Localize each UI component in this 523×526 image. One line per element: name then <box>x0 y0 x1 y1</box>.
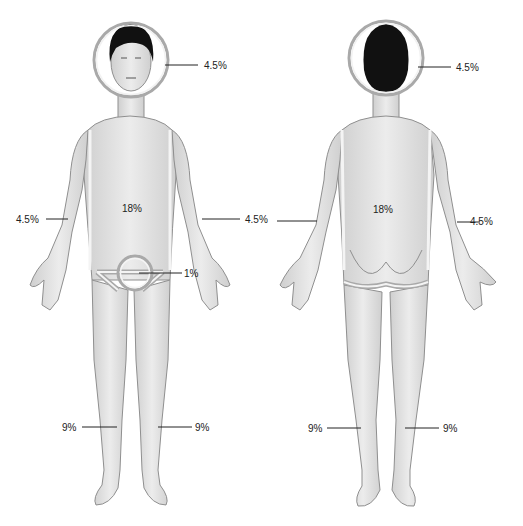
front-left-arm-label: 4.5% <box>16 214 39 225</box>
front-left-leg-label: 9% <box>62 422 76 433</box>
back-left-arm <box>280 130 342 310</box>
front-right-arm <box>172 130 230 310</box>
front-torso-label: 18% <box>122 203 142 214</box>
front-right-leg <box>134 280 170 505</box>
back-right-leg-label: 9% <box>443 423 457 434</box>
back-right-leg <box>390 285 428 506</box>
back-left-leg-label: 9% <box>308 423 322 434</box>
front-left-leg <box>92 280 128 505</box>
front-head-label: 4.5% <box>204 60 227 71</box>
back-figure <box>280 90 496 506</box>
front-figure <box>30 33 230 505</box>
back-hair <box>363 24 408 92</box>
back-head-label: 4.5% <box>456 62 479 73</box>
rule-of-nines-diagram <box>0 0 523 526</box>
back-left-leg <box>344 285 382 506</box>
front-right-arm-label: 4.5% <box>245 214 268 225</box>
back-torso-label: 18% <box>373 204 393 215</box>
back-torso <box>338 116 434 285</box>
front-right-leg-label: 9% <box>195 422 209 433</box>
front-genital-label: 1% <box>184 268 198 279</box>
back-right-arm-label: 4.5% <box>470 216 493 227</box>
